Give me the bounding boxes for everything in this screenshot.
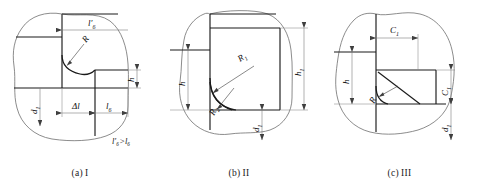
label-height-left-b: h: [177, 81, 187, 86]
label-height-left-c: h: [341, 79, 351, 84]
label-height-right-b: h1: [293, 69, 305, 77]
label-height-a: h: [126, 77, 136, 82]
label-chamfer-right-c: C1: [440, 87, 452, 96]
caption-c: (c)III: [318, 168, 481, 178]
chamfer-line-c: [378, 72, 420, 104]
label-radius1-b: R1: [235, 51, 249, 66]
fillet-arc-a: [62, 55, 95, 75]
label-delta-a: Δl: [71, 101, 80, 111]
caption-a: (a)I: [0, 168, 160, 178]
figure-root: R l′6 h d1: [0, 0, 481, 182]
diagram-panel-c: R C1 C1 h d1: [318, 0, 481, 182]
diagram-panel-b: R1 R2 h h1 d1: [158, 0, 320, 182]
note-inequality-a: l′₆>l₆: [112, 136, 130, 146]
label-depth-a: d1: [29, 107, 41, 115]
caption-a-index: (a): [72, 168, 83, 178]
label-radius-a: R: [79, 33, 91, 45]
label-top-length-a: l′6: [88, 18, 95, 30]
caption-b-index: (b): [229, 168, 241, 178]
caption-b-roman: II: [241, 168, 250, 178]
label-length-a: l6: [106, 101, 112, 113]
diagram-panel-a: R l′6 h d1: [0, 0, 160, 182]
label-chamfer-top-c: C1: [390, 25, 399, 37]
caption-a-roman: I: [83, 168, 88, 178]
diagram-c-drawing: R C1 C1 h d1: [318, 0, 481, 155]
label-depth-b: d1: [251, 125, 263, 133]
workpiece-contour-b: [180, 11, 293, 135]
caption-c-roman: III: [399, 168, 411, 178]
part-profile-a: [14, 14, 128, 136]
diagram-a-drawing: R l′6 h d1: [0, 0, 160, 155]
caption-b: (b)II: [158, 168, 320, 178]
label-depth-c: d1: [440, 125, 452, 133]
caption-c-index: (c): [388, 168, 399, 178]
diagram-b-drawing: R1 R2 h h1 d1: [158, 0, 320, 155]
radius-leader-a: [68, 44, 84, 64]
workpiece-contour-a: [13, 13, 128, 141]
